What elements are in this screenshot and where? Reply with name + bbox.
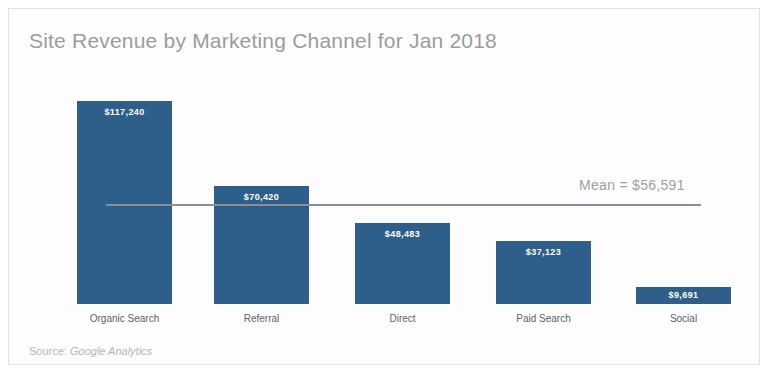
- mean-reference-line: [106, 204, 701, 206]
- source-note: Source: Google Analytics: [29, 345, 152, 357]
- bar-value-label: $70,420: [214, 192, 309, 202]
- bar-group-social[interactable]: $9,691 Social: [636, 287, 731, 304]
- source-prefix: Source:: [29, 345, 70, 357]
- bar-value-label: $9,691: [636, 290, 731, 300]
- category-label-direct: Direct: [341, 313, 464, 324]
- bar-organic-search[interactable]: $117,240: [77, 101, 172, 304]
- category-label-paid-search: Paid Search: [482, 313, 605, 324]
- chart-card: Site Revenue by Marketing Channel for Ja…: [8, 8, 760, 365]
- category-label-organic-search: Organic Search: [63, 313, 186, 324]
- bar-social[interactable]: $9,691: [636, 287, 731, 304]
- bar-value-label: $48,483: [355, 229, 450, 239]
- bar-paid-search[interactable]: $37,123: [496, 241, 591, 304]
- source-name: Google Analytics: [70, 345, 152, 357]
- category-label-social: Social: [622, 313, 745, 324]
- bar-direct[interactable]: $48,483: [355, 223, 450, 304]
- bar-value-label: $117,240: [77, 107, 172, 117]
- bar-group-organic-search[interactable]: $117,240 Organic Search: [77, 101, 172, 304]
- bar-group-paid-search[interactable]: $37,123 Paid Search: [496, 241, 591, 304]
- category-label-referral: Referral: [200, 313, 323, 324]
- plot-area: $117,240 Organic Search $70,420 Referral…: [9, 9, 759, 364]
- mean-annotation-label: Mean = $56,591: [579, 177, 685, 193]
- bar-value-label: $37,123: [496, 247, 591, 257]
- bar-group-direct[interactable]: $48,483 Direct: [355, 223, 450, 304]
